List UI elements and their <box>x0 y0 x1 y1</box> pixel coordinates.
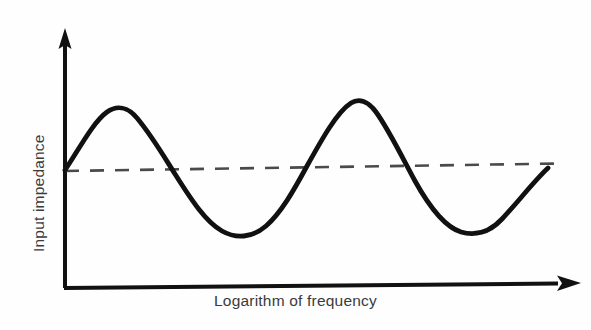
y-axis <box>59 28 72 288</box>
impedance-plot <box>0 0 591 330</box>
x-axis-line <box>64 284 558 289</box>
y-axis-label: Input impedance <box>30 134 48 252</box>
input-impedance-curve <box>65 101 548 237</box>
figure-root: Logarithm of frequency Input impedance <box>0 0 591 330</box>
x-axis-arrowhead-icon <box>557 276 581 292</box>
mean-impedance-dashed-line <box>65 164 561 172</box>
x-axis-label: Logarithm of frequency <box>0 292 591 310</box>
x-axis <box>64 276 581 292</box>
